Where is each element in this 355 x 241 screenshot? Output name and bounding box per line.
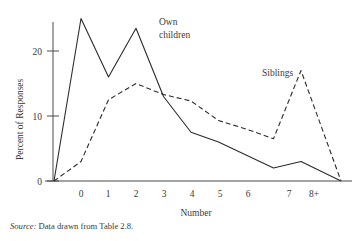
x-tick-label-7: 7 (287, 189, 292, 199)
x-tick-label-1: 1 (106, 189, 111, 199)
x-axis-title: Number (180, 208, 212, 218)
series-label-own-children-line1: Own (159, 17, 178, 27)
y-axis-title: Percent of Responses (15, 78, 25, 160)
source-note: Source: Data drawn from Table 2.8. (10, 221, 133, 231)
y-tick-label-20: 20 (33, 47, 43, 57)
series-line-own-children (54, 19, 341, 182)
chart-canvas: 0 10 20 Percent of Responses 0 1 2 3 4 5… (0, 0, 355, 241)
x-tick-label-5: 5 (218, 189, 223, 199)
x-tick-label-8plus: 8+ (309, 189, 319, 199)
source-note-text: Data drawn from Table 2.8. (39, 221, 134, 231)
source-note-prefix: Source: (10, 221, 36, 231)
x-tick-label-6: 6 (246, 189, 251, 199)
y-tick-label-10: 10 (33, 112, 43, 122)
x-tick-label-4: 4 (190, 189, 195, 199)
y-tick-label-0: 0 (37, 177, 42, 187)
x-tick-label-3: 3 (162, 189, 167, 199)
x-tick-label-2: 2 (134, 189, 139, 199)
x-tick-label-0: 0 (79, 189, 84, 199)
series-line-siblings (54, 71, 341, 182)
figure-container: 0 10 20 Percent of Responses 0 1 2 3 4 5… (0, 0, 355, 241)
series-label-own-children-line2: children (159, 30, 190, 40)
series-label-siblings: Siblings (262, 68, 293, 78)
